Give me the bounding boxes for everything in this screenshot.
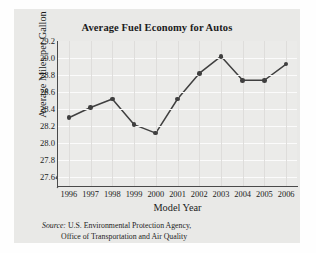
y-tick-28.2: 28.2	[29, 121, 55, 131]
gridline-vertical	[264, 41, 265, 186]
data-point-1996	[67, 115, 72, 120]
y-tick-28.0: 28.0	[29, 138, 55, 148]
x-tick-2006: 2006	[271, 190, 301, 199]
data-point-2002	[197, 71, 202, 76]
figure-panel: Average Fuel Economy for Autos Average M…	[14, 9, 300, 243]
gridline-vertical	[134, 41, 135, 186]
source-line-1: U.S. Environmental Protection Agency,	[68, 221, 191, 230]
x-axis-line	[57, 186, 298, 187]
gridline-vertical	[199, 41, 200, 186]
data-point-2003	[219, 54, 224, 59]
x-axis-title: Model Year	[58, 202, 297, 213]
figure-page: Average Fuel Economy for Autos Average M…	[0, 0, 316, 253]
y-tick-28.8: 28.8	[29, 70, 55, 80]
gridline-vertical	[91, 41, 92, 186]
y-tick-29.2: 29.2	[29, 36, 55, 46]
y-tick-28.6: 28.6	[29, 87, 55, 97]
y-tick-27.8: 27.8	[29, 155, 55, 165]
plot-area	[58, 41, 297, 186]
y-tick-29.0: 29.0	[29, 53, 55, 63]
gridline-vertical	[221, 41, 222, 186]
source-label: Source:	[42, 221, 66, 230]
data-point-2005	[262, 78, 267, 83]
gridline-vertical	[178, 41, 179, 186]
data-point-2004	[240, 78, 245, 83]
y-axis-tick-labels: 29.229.028.828.628.428.228.027.827.6	[25, 41, 55, 186]
chart-title: Average Fuel Economy for Autos	[14, 22, 300, 33]
gridline-vertical	[69, 41, 70, 186]
gridline-vertical	[156, 41, 157, 186]
data-point-2001	[175, 97, 180, 102]
y-tick-28.4: 28.4	[29, 104, 55, 114]
gridline-vertical	[112, 41, 113, 186]
gridline-vertical	[243, 41, 244, 186]
source-line-2: Office of Transportation and Air Quality	[61, 232, 191, 243]
x-axis-tick-labels: 1996199719981999200020012002200320042005…	[58, 190, 297, 202]
source-note: Source: U.S. Environmental Protection Ag…	[42, 221, 191, 242]
data-point-1998	[110, 97, 115, 102]
data-point-1997	[88, 105, 93, 110]
